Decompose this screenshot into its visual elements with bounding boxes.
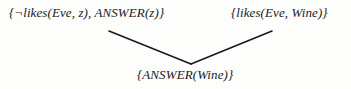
clause-left-parent: {¬likes(Eve, z), ANSWER(z)}	[9, 6, 164, 20]
resolution-proof-diagram: {¬likes(Eve, z), ANSWER(z)} {likes(Eve, …	[0, 0, 351, 89]
clause-right-parent: {likes(Eve, Wine)}	[231, 6, 328, 20]
clause-resolvent: {ANSWER(Wine)}	[137, 68, 233, 82]
